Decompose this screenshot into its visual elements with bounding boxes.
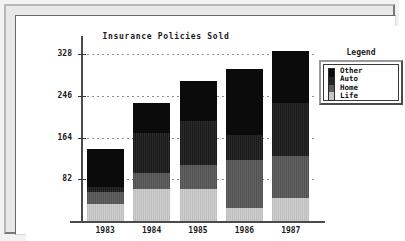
bar-segment-home <box>272 156 309 198</box>
y-axis-tick-label: 328 <box>34 49 72 58</box>
x-axis-tick-label: 1987 <box>268 226 314 235</box>
plot-area: 32824616482 <box>82 38 314 221</box>
legend-swatch-other <box>329 69 334 77</box>
y-axis-tick <box>78 54 86 55</box>
bar-segment-other <box>133 103 170 133</box>
legend-box: OtherAutoHomeLife <box>319 60 403 105</box>
bar-segment-life <box>180 189 217 221</box>
y-axis-tick-label: 164 <box>34 133 72 142</box>
y-axis-tick <box>78 138 86 139</box>
x-axis-tick-label: 1986 <box>221 226 267 235</box>
y-axis-tick <box>78 179 86 180</box>
bar-segment-life <box>87 204 124 221</box>
bar-segment-other <box>272 51 309 103</box>
x-axis-tick-label: 1984 <box>129 226 175 235</box>
x-axis-tick-label: 1983 <box>82 226 128 235</box>
bar-segment-life <box>133 189 170 221</box>
bar-1984[interactable] <box>133 103 170 221</box>
legend-swatch-life <box>329 92 334 100</box>
chart-canvas: Insurance Policies Sold 32824616482 Lege… <box>26 26 405 241</box>
bar-segment-home <box>226 160 263 208</box>
legend-label-life[interactable]: Life <box>340 92 363 100</box>
y-axis-tick-label: 82 <box>34 174 72 183</box>
x-axis-tick-label: 1985 <box>175 226 221 235</box>
bar-segment-auto <box>272 103 309 156</box>
bar-segment-other <box>87 149 124 188</box>
window-bevel-outer: Insurance Policies Sold 32824616482 Lege… <box>4 4 395 234</box>
bar-segment-home <box>133 173 170 190</box>
legend-swatch-home <box>329 85 334 93</box>
y-axis-tick-label: 246 <box>34 91 72 100</box>
bar-segment-life <box>272 198 309 221</box>
bar-segment-life <box>226 208 263 221</box>
legend-swatch-auto <box>329 77 334 85</box>
bar-1983[interactable] <box>87 149 124 221</box>
bar-segment-home <box>180 165 217 189</box>
bar-segment-auto <box>226 135 263 160</box>
bar-segment-auto <box>133 133 170 173</box>
bar-1986[interactable] <box>226 69 263 221</box>
legend-color-swatch <box>328 68 335 101</box>
legend-title: Legend <box>324 48 398 57</box>
bar-segment-other <box>226 69 263 135</box>
bar-1987[interactable] <box>272 51 309 221</box>
legend-entry-list: OtherAutoHomeLife <box>340 67 363 101</box>
x-axis-line <box>70 221 325 223</box>
bar-segment-other <box>180 81 217 121</box>
bar-segment-auto <box>180 121 217 165</box>
y-axis-tick <box>78 96 86 97</box>
bar-segment-home <box>87 192 124 204</box>
window-bevel-inner: Insurance Policies Sold 32824616482 Lege… <box>15 15 396 235</box>
legend-inner-border: OtherAutoHomeLife <box>323 64 399 101</box>
bar-1985[interactable] <box>180 81 217 221</box>
